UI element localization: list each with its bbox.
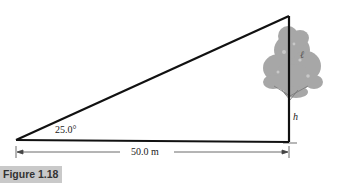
- distance-label: 50.0 m: [131, 147, 159, 157]
- arrowhead-left-icon: [17, 150, 23, 154]
- triangle-tree-diagram: [0, 0, 343, 183]
- canopy-mark: ℓ: [300, 50, 304, 60]
- arrowhead-right-icon: [282, 150, 288, 154]
- angle-label: 25.0°: [55, 125, 77, 135]
- base-line: [16, 140, 289, 142]
- figure-caption: Figure 1.18: [0, 166, 62, 183]
- hypotenuse-line: [16, 16, 289, 140]
- tree-illustration: [263, 26, 323, 143]
- height-label: h: [293, 112, 298, 122]
